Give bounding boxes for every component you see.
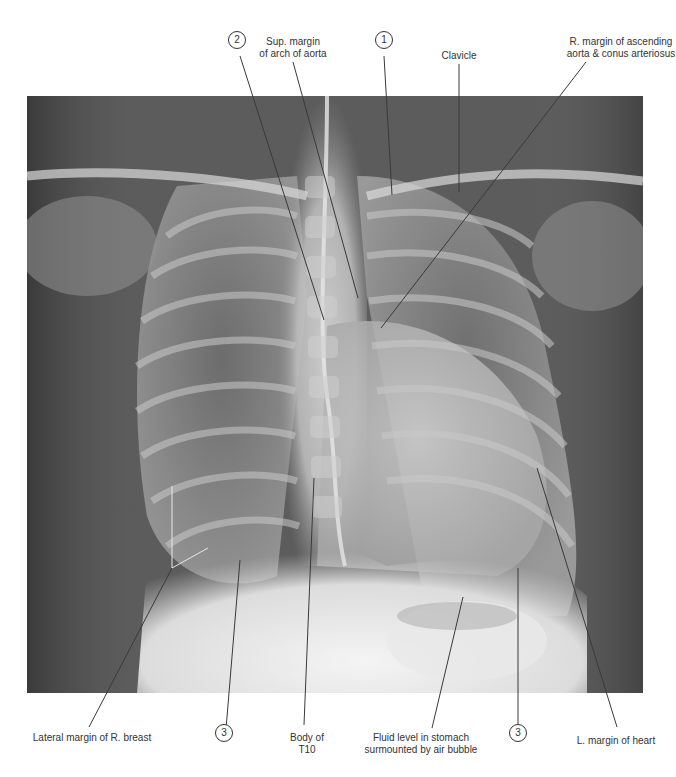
chest-radiograph xyxy=(27,96,643,693)
callout-1-circle: 1 xyxy=(375,31,393,49)
label-clavicle: Clavicle xyxy=(441,50,476,62)
label-r-margin-ascending-aorta: R. margin of ascendingaorta & conus arte… xyxy=(567,36,675,60)
radiograph-rendering xyxy=(27,96,643,693)
label-fluid-level-stomach: Fluid level in stomachsurmounted by air … xyxy=(365,732,478,756)
figure: Sup. marginof arch of aortaClavicleR. ma… xyxy=(0,0,676,777)
label-body-of-t10: Body ofT10 xyxy=(290,732,324,756)
label-text-line: Body of xyxy=(290,732,324,744)
label-text-line: T10 xyxy=(290,744,324,756)
label-text-line: R. margin of ascending xyxy=(567,36,675,48)
label-l-margin-of-heart: L. margin of heart xyxy=(577,735,655,747)
label-text-line: of arch of aorta xyxy=(259,48,326,60)
label-text-line: Fluid level in stomach xyxy=(365,732,478,744)
label-text-line: aorta & conus arteriosus xyxy=(567,48,675,60)
callout-3-left-circle: 3 xyxy=(215,724,233,742)
label-text-line: Lateral margin of R. breast xyxy=(33,732,151,744)
label-lateral-margin-r-breast: Lateral margin of R. breast xyxy=(33,732,151,744)
label-sup-margin-arch-aorta: Sup. marginof arch of aorta xyxy=(259,36,326,60)
label-text-line: surmounted by air bubble xyxy=(365,744,478,756)
callout-2-circle: 2 xyxy=(228,31,246,49)
callout-3-right-circle: 3 xyxy=(509,724,527,742)
label-text-line: Sup. margin xyxy=(259,36,326,48)
label-text-line: Clavicle xyxy=(441,50,476,62)
label-text-line: L. margin of heart xyxy=(577,735,655,747)
